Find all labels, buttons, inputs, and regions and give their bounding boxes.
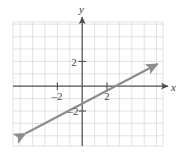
coordinate-plane-figure: –2 2 2 –2 x y — [0, 0, 181, 161]
y-axis-tick-label-neg2: –2 — [67, 105, 79, 117]
y-axis-tick-label-pos2: 2 — [71, 56, 77, 68]
x-axis-label: x — [170, 81, 176, 93]
graph-svg: –2 2 2 –2 x y — [0, 0, 181, 161]
x-axis-tick-label-pos2: 2 — [104, 90, 110, 102]
x-axis-tick-label-neg2: –2 — [51, 90, 63, 102]
y-axis-label: y — [78, 3, 84, 15]
